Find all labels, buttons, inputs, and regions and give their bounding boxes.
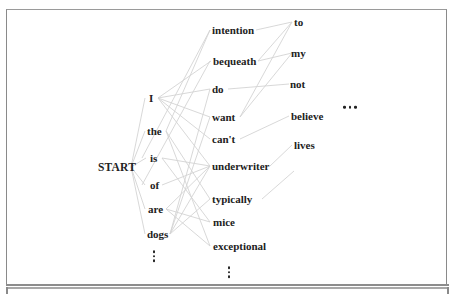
lattice-edge bbox=[240, 116, 289, 139]
word-node-not: not bbox=[290, 78, 305, 90]
word-node-cant: can't bbox=[212, 133, 235, 145]
word-node-dogs: dogs bbox=[147, 228, 168, 240]
lattice-edge bbox=[170, 89, 210, 234]
lattice-edge bbox=[158, 61, 211, 98]
vertical-ellipsis-icon bbox=[227, 264, 231, 280]
word-node-are: are bbox=[148, 203, 163, 215]
horizontal-ellipsis-icon bbox=[343, 106, 357, 109]
word-node-is: is bbox=[150, 152, 157, 164]
vertical-ellipsis-icon bbox=[152, 248, 156, 264]
word-node-want: want bbox=[212, 111, 235, 123]
word-node-intention: intention bbox=[212, 24, 254, 36]
word-node-of: of bbox=[150, 179, 159, 191]
lattice-edge bbox=[262, 171, 294, 199]
word-node-do: do bbox=[212, 83, 224, 95]
lattice-edge bbox=[240, 22, 292, 117]
start-node: START bbox=[98, 161, 136, 173]
lattice-edge bbox=[228, 84, 289, 89]
word-node-my: my bbox=[291, 47, 306, 59]
word-node-typically: typically bbox=[212, 193, 252, 205]
lattice-edge bbox=[270, 145, 292, 166]
lattice-edge bbox=[131, 167, 145, 234]
lattice-edge bbox=[142, 61, 210, 185]
word-node-to: to bbox=[294, 16, 303, 28]
word-node-exceptional: exceptional bbox=[213, 240, 266, 252]
word-node-underwriter: underwriter bbox=[212, 160, 269, 172]
lattice-edge bbox=[258, 22, 292, 61]
word-node-believe: believe bbox=[291, 110, 323, 122]
lattice-edge bbox=[166, 30, 210, 131]
word-node-mice: mice bbox=[213, 216, 235, 228]
word-node-bequeath: bequeath bbox=[213, 55, 256, 67]
word-node-lives: lives bbox=[294, 139, 315, 151]
word-node-the: the bbox=[147, 125, 162, 137]
lattice-edge bbox=[166, 209, 210, 222]
word-node-i: I bbox=[149, 92, 153, 104]
